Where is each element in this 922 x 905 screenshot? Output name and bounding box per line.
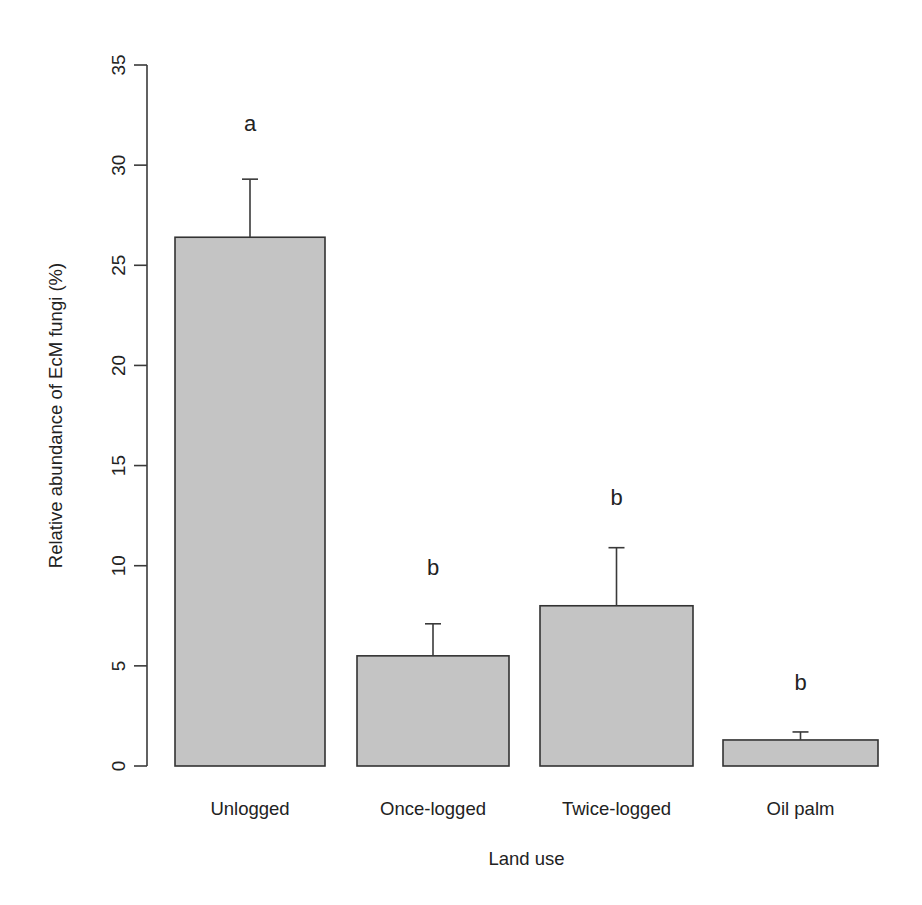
bar-chart: 05101520253035 abbb UnloggedOnce-loggedT… <box>0 0 922 905</box>
bar-unlogged <box>175 237 325 766</box>
y-tick-label: 35 <box>108 54 129 75</box>
cropped-caption-fragment <box>0 897 922 905</box>
y-tick-label: 15 <box>108 455 129 476</box>
bar-once-logged <box>357 656 509 766</box>
significance-letter: a <box>244 111 257 136</box>
y-tick-label: 10 <box>108 555 129 576</box>
significance-letter: b <box>610 485 622 510</box>
x-category-label: Unlogged <box>210 798 289 819</box>
y-tick-label: 5 <box>108 661 129 672</box>
bar-oil-palm <box>723 740 878 766</box>
y-tick-label: 20 <box>108 355 129 376</box>
y-tick-label: 25 <box>108 255 129 276</box>
x-axis-title: Land use <box>488 848 564 869</box>
x-category-label: Oil palm <box>767 798 835 819</box>
significance-letter: b <box>794 670 806 695</box>
significance-letter: b <box>427 555 439 580</box>
bar-twice-logged <box>540 606 693 766</box>
category-labels-group: UnloggedOnce-loggedTwice-loggedOil palm <box>210 798 834 819</box>
x-category-label: Twice-logged <box>562 798 671 819</box>
y-tick-label: 30 <box>108 155 129 176</box>
x-category-label: Once-logged <box>380 798 486 819</box>
y-axis-title: Relative abundance of EcM fungi (%) <box>45 263 66 568</box>
significance-letters-group: abbb <box>244 111 807 695</box>
bars-group <box>175 237 878 766</box>
y-tick-label: 0 <box>108 761 129 772</box>
y-axis: 05101520253035 <box>108 54 147 771</box>
error-bars-group <box>242 179 809 740</box>
